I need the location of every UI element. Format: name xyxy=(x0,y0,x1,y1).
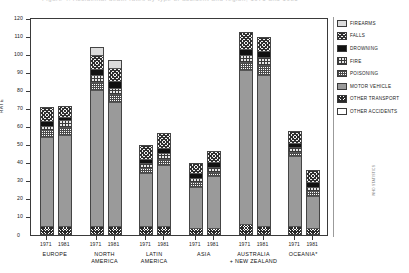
stacked-bar[interactable] xyxy=(90,47,104,235)
chart-figure: Figure 4. Accidental death rates by type… xyxy=(0,0,409,273)
x-axis-tick xyxy=(294,236,295,240)
stacked-bar[interactable] xyxy=(288,131,302,235)
bar-segment-falls xyxy=(158,134,170,149)
bar-segment-motor-vehicle xyxy=(59,136,71,227)
bar-segment-fire xyxy=(91,76,103,82)
x-axis-tick xyxy=(96,236,97,240)
y-axis-tick: 10 xyxy=(0,217,30,218)
bar-segment-motor-vehicle xyxy=(289,157,301,226)
y-axis-tick: 120 xyxy=(0,19,30,20)
legend-label: OTHER TRANSPORT xyxy=(350,96,399,101)
bar-segment-drowning xyxy=(41,122,53,127)
x-axis-group-label-line1: OCEANIA* xyxy=(258,251,348,258)
bar-segment-motor-vehicle xyxy=(307,197,319,229)
bar-segment-firearms xyxy=(109,61,121,69)
y-axis-tick: 80 xyxy=(0,91,30,92)
bar-segment-drowning xyxy=(307,183,319,188)
y-axis-tick-label: 110 xyxy=(14,33,23,39)
bar-segment-other-transport xyxy=(91,227,103,234)
stacked-bar[interactable] xyxy=(139,145,153,235)
plot-area xyxy=(30,18,328,236)
y-axis-tick-label: 10 xyxy=(17,213,23,219)
bar-segment-drowning xyxy=(190,174,202,179)
legend-item-other-accidents[interactable]: OTHER ACCIDENTS xyxy=(337,105,409,118)
legend-item-drowning[interactable]: DROWNING xyxy=(337,42,409,55)
y-axis-tick-label: 30 xyxy=(17,177,23,183)
y-axis-tick-label: 40 xyxy=(17,159,23,165)
y-axis-tick: 90 xyxy=(0,73,30,74)
legend-label: FIRE xyxy=(350,59,361,64)
stacked-bar[interactable] xyxy=(207,151,221,235)
bar-segment-falls xyxy=(91,56,103,70)
bar-segment-motor-vehicle xyxy=(208,177,220,228)
bar-segment-fire xyxy=(59,121,71,127)
bar-segment-motor-vehicle xyxy=(41,138,53,227)
x-axis-tick xyxy=(64,236,65,240)
x-axis-tick xyxy=(213,236,214,240)
bar-segment-falls xyxy=(41,108,53,122)
bar-segment-firearms xyxy=(91,48,103,56)
bar-segment-poisoning xyxy=(240,63,252,71)
bar-segment-other-transport xyxy=(240,225,252,234)
bar-segment-other-transport xyxy=(59,227,71,234)
x-axis-year-label: 1981 xyxy=(252,241,274,247)
bar-segment-fire xyxy=(190,179,202,184)
x-axis-tick xyxy=(46,236,47,240)
bar-segment-falls xyxy=(109,69,121,83)
bar-segment-falls xyxy=(208,152,220,164)
bar-segment-poisoning xyxy=(258,66,270,76)
bar-segment-motor-vehicle xyxy=(240,71,252,225)
legend-item-falls[interactable]: FALLS xyxy=(337,30,409,43)
x-axis-tick xyxy=(163,236,164,240)
y-axis-tick-label: 50 xyxy=(17,141,23,147)
bar-segment-poisoning xyxy=(109,95,121,103)
stacked-bar[interactable] xyxy=(189,163,203,235)
bar-segment-other-transport xyxy=(109,227,121,234)
legend-swatch-other-accidents xyxy=(337,108,347,116)
y-axis-tick-label: 70 xyxy=(17,105,23,111)
bar-segment-fire xyxy=(240,56,252,62)
legend-swatch-fire xyxy=(337,57,347,65)
bar-segment-falls xyxy=(289,132,301,144)
stacked-bar[interactable] xyxy=(40,107,54,235)
stacked-bar[interactable] xyxy=(157,133,171,235)
x-axis-group-label: OCEANIA* xyxy=(258,251,348,258)
x-axis-year-label: 1981 xyxy=(103,241,125,247)
bars-layer xyxy=(31,19,327,235)
legend-item-firearms[interactable]: FIREARMS xyxy=(337,17,409,30)
chart-legend: FIREARMSFALLSDROWNINGFIREPOISONINGMOTOR … xyxy=(333,17,409,237)
bar-segment-motor-vehicle xyxy=(109,103,121,226)
stacked-bar[interactable] xyxy=(58,106,72,235)
stacked-bar[interactable] xyxy=(108,60,122,235)
stacked-bar[interactable] xyxy=(306,170,320,235)
stacked-bar[interactable] xyxy=(239,32,253,235)
x-axis-year-label: 1981 xyxy=(202,241,224,247)
bar-segment-other-transport xyxy=(41,227,53,234)
bar-segment-other-transport xyxy=(140,227,152,234)
legend-label: MOTOR VEHICLE xyxy=(350,84,391,89)
bar-segment-drowning xyxy=(59,118,71,121)
y-axis-tick-label: 60 xyxy=(17,123,23,129)
y-axis-tick-label: 100 xyxy=(14,51,23,57)
x-axis-group-label-line2: AMERICA xyxy=(109,258,199,265)
legend-item-other-transport[interactable]: OTHER TRANSPORT xyxy=(337,93,409,106)
x-axis-tick xyxy=(263,236,264,240)
legend-label: FALLS xyxy=(350,33,365,38)
x-axis-group-label-line2: + NEW ZEALAND xyxy=(209,258,299,265)
bar-segment-poisoning xyxy=(190,183,202,188)
legend-item-motor-vehicle[interactable]: MOTOR VEHICLE xyxy=(337,80,409,93)
bar-segment-drowning xyxy=(208,163,220,168)
bar-segment-poisoning xyxy=(289,153,301,158)
legend-item-fire[interactable]: FIRE xyxy=(337,55,409,68)
y-axis-tick: 30 xyxy=(0,181,30,182)
bar-segment-other-transport xyxy=(190,229,202,234)
bar-segment-motor-vehicle xyxy=(190,188,202,229)
stacked-bar[interactable] xyxy=(257,37,271,235)
bar-segment-other-transport xyxy=(158,227,170,234)
bar-segment-drowning xyxy=(109,82,121,88)
bar-segment-drowning xyxy=(140,160,152,165)
y-axis-tick-label: 90 xyxy=(17,69,23,75)
bar-segment-motor-vehicle xyxy=(158,166,170,226)
y-axis-tick: 20 xyxy=(0,199,30,200)
legend-item-poisoning[interactable]: POISONING xyxy=(337,67,409,80)
